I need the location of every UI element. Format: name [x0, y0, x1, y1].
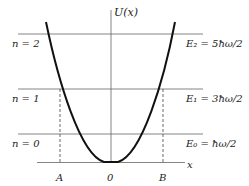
y-axis-label: U(x)	[114, 6, 138, 19]
level-n0-label: n = 0	[12, 138, 40, 149]
level-n1-label: n = 1	[12, 93, 40, 104]
turning-point-a-label: A	[55, 172, 63, 183]
potential-curve	[46, 22, 175, 162]
turning-point-b-label: B	[158, 172, 166, 183]
x-axis-label: x	[187, 159, 193, 170]
level-e1-label: E₁ = 3ħω/2	[185, 93, 243, 104]
origin-label: 0	[107, 172, 114, 183]
harmonic-oscillator-diagram: U(x) x 0 A B n = 2 n = 1 n = 0 E₂ = 5ħω/…	[0, 0, 249, 186]
level-n2-label: n = 2	[12, 38, 40, 49]
level-e0-label: E₀ = ħω/2	[185, 138, 236, 149]
level-e2-label: E₂ = 5ħω/2	[185, 38, 243, 49]
